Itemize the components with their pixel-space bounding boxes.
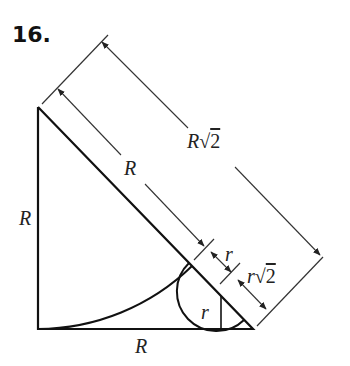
sqrt-symbol: √ bbox=[255, 265, 266, 287]
label-small-total: r√2 bbox=[247, 266, 276, 286]
problem-number: 16. bbox=[12, 22, 51, 47]
label-left-side: R bbox=[19, 208, 31, 228]
ext-line-r2 bbox=[220, 263, 240, 284]
label-bottom-side: R bbox=[135, 336, 147, 356]
label-small-gap: r bbox=[225, 244, 233, 264]
dim-Rsqrt2-upper bbox=[102, 42, 188, 128]
label-small-radius: r bbox=[201, 302, 209, 322]
ext-line-r1 bbox=[194, 239, 214, 260]
dim-R-upper bbox=[58, 89, 121, 155]
hyp-total-var: R bbox=[187, 130, 199, 152]
dim-R-lower bbox=[145, 184, 204, 246]
dim-Rsqrt2-lower bbox=[235, 167, 320, 255]
right-triangle bbox=[38, 107, 253, 329]
small-total-radicand: 2 bbox=[266, 265, 276, 287]
geometry-diagram bbox=[0, 0, 350, 366]
small-total-var: r bbox=[247, 265, 255, 287]
ext-line-top bbox=[42, 35, 108, 104]
small-circle-arc bbox=[177, 263, 244, 331]
quarter-arc bbox=[38, 266, 192, 329]
sqrt-symbol: √ bbox=[199, 130, 210, 152]
label-hyp-total: R√2 bbox=[187, 131, 220, 151]
label-hyp-segment: R bbox=[124, 158, 136, 178]
hyp-total-radicand: 2 bbox=[210, 130, 220, 152]
